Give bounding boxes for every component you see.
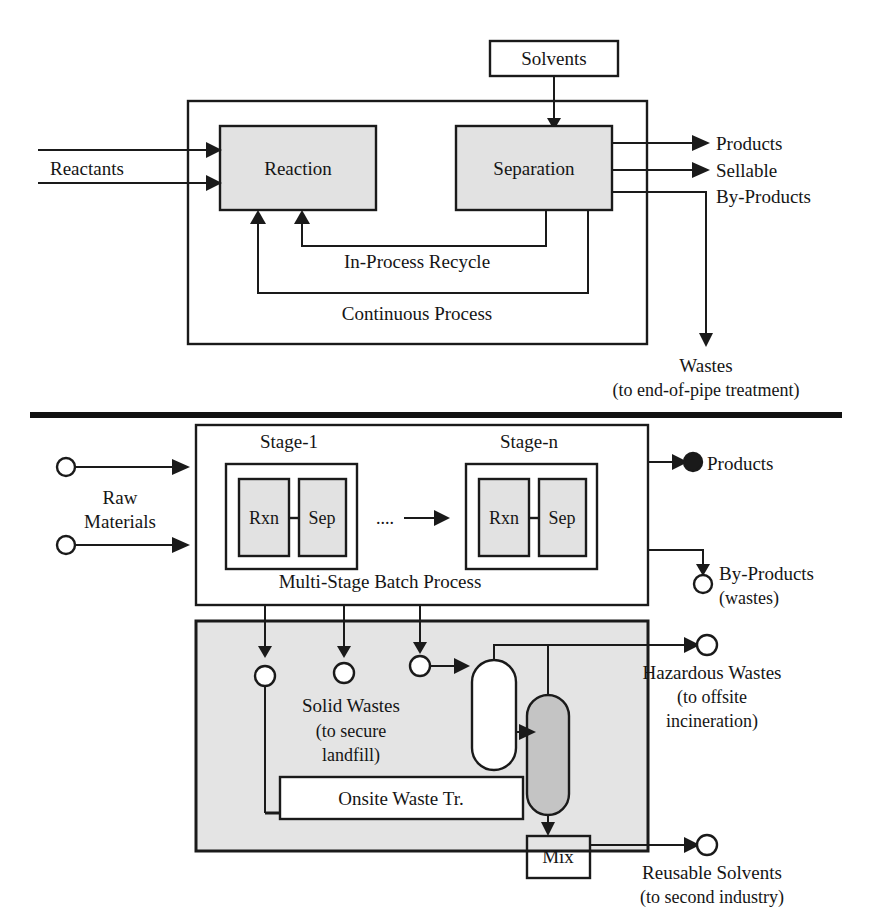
- raw-material-source-circle-1: [57, 458, 75, 476]
- top-byproducts-label: By-Products: [716, 186, 811, 207]
- top-wastes-label: Wastes: [679, 355, 732, 376]
- solid-wastes-sublabel1: (to secure: [316, 721, 386, 742]
- solvents-box-label: Solvents: [521, 48, 586, 69]
- section-divider: [30, 412, 842, 418]
- stage-n-group: Stage-n Rxn Sep: [466, 431, 597, 569]
- top-wastes-outlet: [612, 192, 713, 347]
- stage-n-sep-label: Sep: [549, 508, 576, 528]
- stage-1-sep-label: Sep: [309, 508, 336, 528]
- reactants-label: Reactants: [50, 158, 124, 179]
- solid-wastes-label: Solid Wastes: [302, 695, 400, 716]
- continuous-process-caption: Continuous Process: [342, 303, 492, 324]
- stage-1-title: Stage-1: [260, 431, 318, 452]
- mix-box-label: Mix: [542, 846, 574, 867]
- waste-vessel-white: [472, 660, 516, 770]
- bottom-byproducts-outlet: [648, 550, 712, 593]
- bottom-byproducts-sublabel: (wastes): [719, 588, 779, 609]
- top-products-outlet: [612, 135, 710, 151]
- bottom-products-label: Products: [707, 453, 774, 474]
- in-process-recycle-short: [294, 210, 546, 246]
- onsite-waste-tr-label: Onsite Waste Tr.: [338, 788, 463, 809]
- raw-material-source-circle-2: [57, 536, 75, 554]
- top-sellable-label: Sellable: [716, 160, 777, 181]
- solvents-box: Solvents: [490, 41, 618, 76]
- solid-waste-circle-1: [255, 666, 275, 686]
- separation-unit-label: Separation: [493, 158, 575, 179]
- onsite-waste-tr-box: Onsite Waste Tr.: [280, 777, 523, 819]
- hazardous-wastes-sublabel1: (to offsite: [677, 687, 747, 708]
- diagram-canvas: Solvents Continuous Process Reaction Sep…: [0, 0, 872, 908]
- raw-materials-label2: Materials: [84, 511, 156, 532]
- raw-materials-label: Raw: [103, 487, 138, 508]
- separation-unit: Separation: [456, 126, 612, 210]
- stage-1-rxn-label: Rxn: [249, 508, 279, 528]
- hazardous-wastes-sublabel2: incineration): [666, 711, 758, 732]
- reaction-unit-label: Reaction: [264, 158, 332, 179]
- in-process-recycle-label: In-Process Recycle: [344, 251, 490, 272]
- solid-waste-circle-2: [334, 663, 354, 683]
- stage-gap-marker: ....: [376, 508, 394, 528]
- products-terminal-circle: [684, 453, 702, 471]
- bottom-products-outlet: [648, 453, 702, 471]
- stage-transition-arrow: [404, 510, 450, 526]
- reusable-solvents-terminal-circle: [697, 835, 717, 855]
- waste-vessel-gray: [527, 695, 569, 815]
- hazardous-wastes-label: Hazardous Wastes: [643, 662, 782, 683]
- top-products-label: Products: [716, 133, 783, 154]
- reusable-solvents-label: Reusable Solvents: [642, 862, 782, 883]
- byproducts-terminal-circle: [694, 575, 712, 593]
- reaction-unit: Reaction: [220, 126, 376, 210]
- stage-n-title: Stage-n: [500, 431, 559, 452]
- top-wastes-sublabel: (to end-of-pipe treatment): [613, 380, 800, 401]
- top-sellable-byproducts-outlet: [612, 162, 710, 178]
- process-flow-diagram: Solvents Continuous Process Reaction Sep…: [0, 0, 872, 908]
- solid-waste-circle-3: [410, 656, 430, 676]
- stage-1-group: Stage-1 Rxn Sep: [226, 431, 357, 569]
- reusable-solvents-sublabel1: (to second industry): [640, 887, 784, 908]
- hazardous-wastes-terminal-circle: [697, 635, 717, 655]
- solid-wastes-sublabel2: landfill): [322, 745, 380, 766]
- bottom-byproducts-label: By-Products: [719, 563, 814, 584]
- multistage-batch-caption: Multi-Stage Batch Process: [279, 571, 482, 592]
- stage-n-rxn-label: Rxn: [489, 508, 519, 528]
